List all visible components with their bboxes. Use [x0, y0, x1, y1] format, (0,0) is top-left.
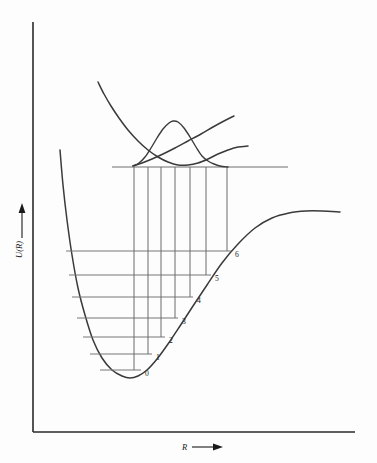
axes-group: [33, 22, 355, 432]
vibrational-level-label-v4: 4: [197, 296, 201, 305]
y-axis-label-group: U(R): [14, 203, 25, 258]
vibrational-level-label-v6: 6: [235, 250, 239, 259]
figure-container: 0123456 U(R) R: [0, 0, 377, 463]
excited-state-potential-curve: [98, 82, 248, 165]
potential-energy-diagram: 0123456 U(R) R: [0, 0, 377, 463]
vibrational-level-labels-group: 0123456: [145, 250, 239, 378]
transition-lines-group: [134, 167, 227, 370]
vibrational-level-label-v5: 5: [215, 274, 219, 283]
excited-state-wavefunction-curve: [133, 121, 228, 167]
x-axis-arrow-head: [213, 444, 223, 451]
repulsive-crossing-curve: [133, 116, 234, 166]
y-axis-arrow-head: [19, 203, 26, 213]
vibrational-level-label-v3: 3: [182, 317, 186, 326]
vibrational-level-label-v0: 0: [145, 369, 149, 378]
ground-state-potential-curve: [60, 150, 340, 378]
vibrational-level-label-v2: 2: [169, 336, 173, 345]
y-axis-label: U(R): [14, 241, 24, 258]
x-axis-label: R: [181, 442, 188, 452]
x-axis-label-group: R: [181, 442, 223, 452]
vibrational-level-label-v1: 1: [156, 353, 160, 362]
